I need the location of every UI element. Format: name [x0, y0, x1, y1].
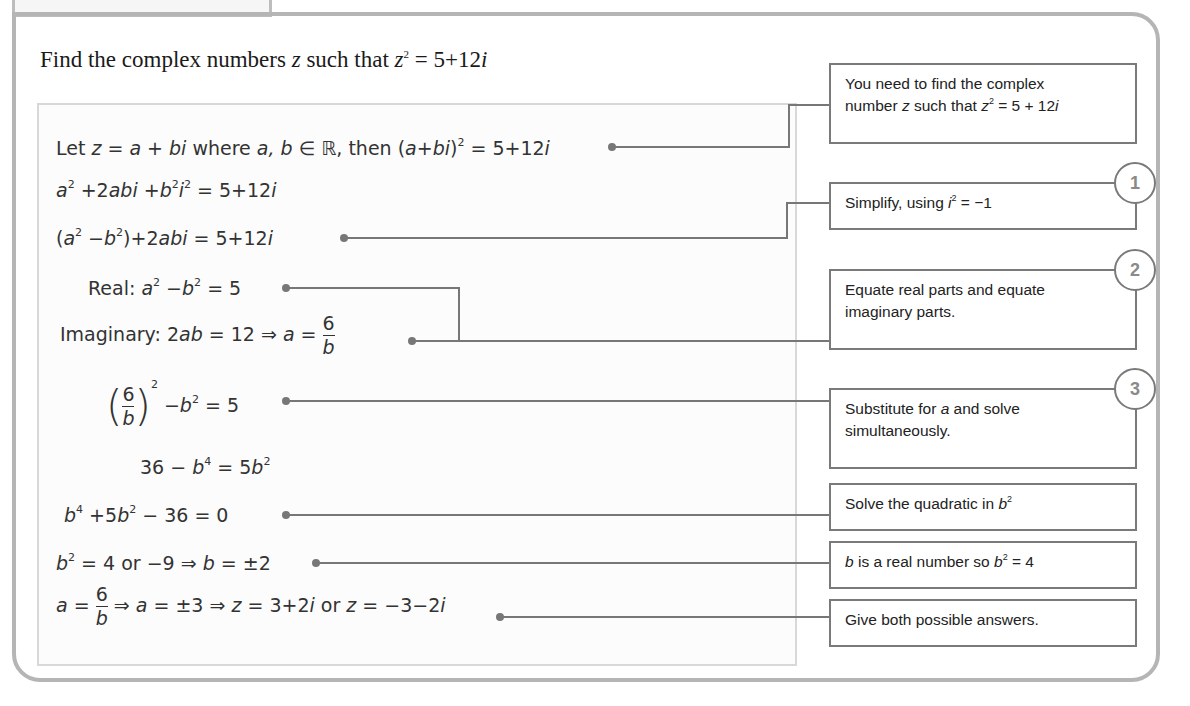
step-badge-3: 3	[1114, 368, 1156, 410]
connector-line	[788, 104, 790, 148]
connector-line	[288, 287, 460, 289]
connector-line	[786, 202, 788, 239]
connector-line	[288, 514, 830, 516]
step-badge-1: 1	[1114, 162, 1156, 204]
fraction: 6b	[323, 314, 335, 357]
connector-line	[502, 616, 830, 618]
connector-line	[458, 287, 460, 341]
step-badge-2: 2	[1114, 249, 1156, 291]
note-b-real: b is a real number so b2 = 4	[829, 541, 1137, 589]
working-line-6: (6b)2 −b2 = 5	[106, 378, 239, 431]
working-line-2: a2 +2abi +b2i2 = 5+12i	[56, 178, 276, 201]
connector-line	[288, 400, 830, 402]
working-line-4: Real: a2 −b2 = 5	[88, 276, 241, 299]
note-find-z: You need to find the complex number z su…	[829, 63, 1137, 144]
working-line-10: a = 6b ⇒ a = ±3 ⇒ z = 3+2i or z = −3−2i	[56, 585, 446, 628]
connector-line	[346, 237, 788, 239]
note-solve-quadratic: Solve the quadratic in b2	[829, 483, 1137, 531]
connector-line	[788, 104, 830, 106]
working-line-8: b4 +5b2 − 36 = 0	[64, 503, 228, 526]
note-equate-parts: Equate real parts and equate imaginary p…	[829, 269, 1137, 350]
connector-line	[318, 562, 830, 564]
working-line-9: b2 = 4 or −9 ⇒ b = ±2	[56, 551, 271, 574]
connector-line	[414, 340, 830, 342]
connector-line	[614, 146, 790, 148]
working-line-1: Let z = a + bi where a, b ∈ ℝ, then (a+b…	[56, 136, 550, 159]
note-both-answers: Give both possible answers.	[829, 599, 1137, 647]
working-line-3: (a2 −b2)+2abi = 5+12i	[56, 226, 273, 249]
note-substitute: Substitute for a and solve simultaneousl…	[829, 388, 1137, 469]
question-text: Find the complex numbers z such that z2 …	[40, 47, 487, 73]
note-simplify: Simplify, using i2 = −1	[829, 182, 1137, 230]
connector-line	[786, 202, 830, 204]
working-line-5: Imaginary: 2ab = 12 ⇒ a = 6b	[60, 314, 335, 357]
working-line-7: 36 − b4 = 5b2	[140, 455, 270, 478]
